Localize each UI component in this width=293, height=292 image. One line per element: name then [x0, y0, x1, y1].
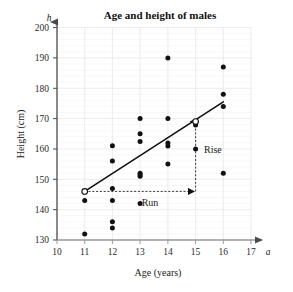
- data-point: [138, 116, 143, 121]
- data-point: [221, 92, 226, 97]
- x-tick-label: 17: [246, 247, 256, 257]
- trend-marker-start: [82, 189, 88, 195]
- chart-title: Age and height of males: [104, 9, 217, 21]
- data-point: [110, 219, 115, 224]
- scatter-plot: 130 140 150 160 170 180 190 200 10 11 12…: [0, 0, 293, 292]
- data-point: [82, 198, 87, 203]
- data-point: [82, 231, 87, 236]
- data-point: [138, 131, 143, 136]
- data-point: [165, 116, 170, 121]
- x-tick-label: 15: [191, 247, 201, 257]
- chart-figure: 130 140 150 160 170 180 190 200 10 11 12…: [0, 0, 293, 292]
- x-tick-label: 12: [108, 247, 118, 257]
- data-point: [165, 56, 170, 61]
- y-tick-label: 200: [35, 23, 50, 33]
- data-point: [110, 159, 115, 164]
- y-tick-label: 180: [35, 84, 50, 94]
- plot-background: [57, 27, 251, 240]
- x-tick-label: 16: [219, 247, 229, 257]
- y-tick-label: 170: [35, 114, 50, 124]
- data-point: [193, 147, 198, 152]
- x-axis-symbol: a: [266, 247, 271, 257]
- y-tick-label: 140: [35, 205, 50, 215]
- rise-label: Rise: [204, 144, 222, 155]
- data-point: [110, 186, 115, 191]
- data-point: [138, 174, 143, 179]
- data-point: [165, 144, 170, 149]
- y-tick-label: 130: [35, 235, 50, 245]
- data-point: [165, 162, 170, 167]
- y-axis-symbol: h: [47, 13, 52, 23]
- data-point: [138, 139, 143, 144]
- run-label: Run: [142, 197, 159, 208]
- x-tick-label: 11: [80, 247, 89, 257]
- data-point: [221, 65, 226, 70]
- x-tick-label: 14: [163, 247, 173, 257]
- trend-marker-end: [193, 119, 199, 125]
- x-tick-label: 13: [135, 247, 145, 257]
- y-axis-title: Height (cm): [15, 110, 27, 159]
- x-axis-title: Age (years): [135, 267, 182, 279]
- y-tick-label: 150: [35, 175, 50, 185]
- data-point: [110, 143, 115, 148]
- data-point: [221, 171, 226, 176]
- data-point: [110, 198, 115, 203]
- y-tick-label: 190: [35, 53, 50, 63]
- data-point: [221, 104, 226, 109]
- x-tick-label: 10: [52, 247, 62, 257]
- data-point: [138, 201, 143, 206]
- data-point: [110, 225, 115, 230]
- y-tick-label: 160: [35, 144, 50, 154]
